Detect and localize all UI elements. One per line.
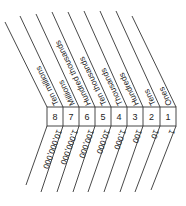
- value-tens: 10: [149, 128, 161, 140]
- digit-4: 4: [116, 112, 121, 122]
- digit-7: 7: [68, 112, 73, 122]
- value-ten-thousands: 10,000: [94, 128, 111, 155]
- digit-2: 2: [149, 112, 154, 122]
- digits: 8 7 6 5 4 3 2 1: [52, 112, 170, 122]
- label-ten-millions: Ten millions: [34, 65, 61, 107]
- place-value-diagram: 8 7 6 5 4 3 2 1 Ten millions Millions Hu…: [0, 0, 186, 206]
- value-thousands: 1,000: [112, 128, 128, 151]
- digit-6: 6: [84, 112, 89, 122]
- place-names: Ten millions Millions Hundred thousands …: [34, 39, 174, 107]
- place-values: 10,000,000 1,000,000 100,000 10,000 1,00…: [41, 128, 177, 170]
- cell-dividers: [63, 107, 160, 126]
- digit-5: 5: [100, 112, 105, 122]
- digit-3: 3: [132, 112, 137, 122]
- value-hundreds: 100: [130, 128, 143, 144]
- digit-1: 1: [165, 112, 170, 122]
- digit-8: 8: [52, 112, 57, 122]
- digit-box: [47, 107, 176, 126]
